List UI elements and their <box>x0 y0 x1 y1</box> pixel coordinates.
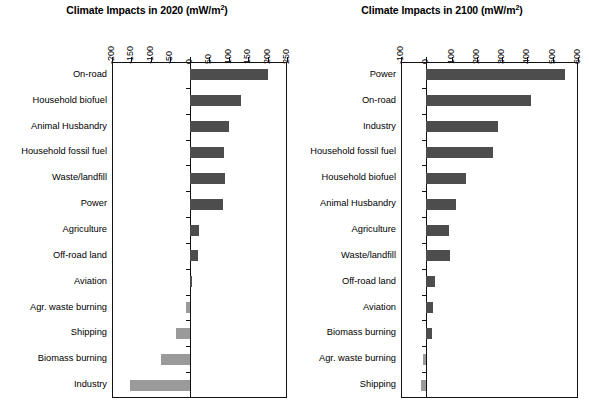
x-axis-tick <box>131 57 132 62</box>
bar <box>190 276 192 287</box>
bar <box>426 199 456 210</box>
category-tick <box>422 114 426 115</box>
category-label: Household fossil fuel <box>3 146 107 156</box>
category-label: Waste/landfill <box>3 172 107 182</box>
x-axis-tick <box>502 57 503 62</box>
chart-panel-2020: Climate Impacts in 2020 (mW/m2) -200-150… <box>0 0 294 411</box>
category-label: Animal Husbandry <box>298 198 396 208</box>
bar <box>426 173 466 184</box>
category-tick <box>422 191 426 192</box>
x-axis-tick <box>248 57 249 62</box>
x-axis-tick <box>527 57 528 62</box>
category-tick <box>186 372 190 373</box>
figure-root: Climate Impacts in 2020 (mW/m2) -200-150… <box>0 0 589 411</box>
category-tick <box>186 243 190 244</box>
category-label: Power <box>3 198 107 208</box>
category-label: Industry <box>3 379 107 389</box>
bar <box>426 69 565 80</box>
category-tick <box>422 88 426 89</box>
category-tick <box>422 295 426 296</box>
x-axis-tick <box>209 57 210 62</box>
bar <box>426 276 435 287</box>
category-tick <box>186 320 190 321</box>
chart-panel-2100: Climate Impacts in 2100 (mW/m2) -1000100… <box>295 0 589 411</box>
bar <box>176 328 190 339</box>
category-tick <box>186 269 190 270</box>
x-axis-tick <box>578 57 579 62</box>
category-tick <box>186 165 190 166</box>
category-label: On-road <box>298 95 396 105</box>
bar <box>190 69 268 80</box>
category-tick <box>186 88 190 89</box>
chart-title-2020: Climate Impacts in 2020 (mW/m2) <box>0 4 294 16</box>
category-label: Off-road land <box>3 250 107 260</box>
category-label: Agriculture <box>3 224 107 234</box>
x-axis-tick <box>401 57 402 62</box>
x-axis-tick <box>477 57 478 62</box>
category-label: Animal Husbandry <box>3 121 107 131</box>
bar <box>190 147 224 158</box>
category-tick <box>422 165 426 166</box>
plot-area-2020 <box>112 62 287 398</box>
category-label: Biomass burning <box>298 327 396 337</box>
category-tick <box>422 62 426 63</box>
bar <box>426 328 432 339</box>
bar <box>426 121 498 132</box>
bar <box>426 147 493 158</box>
bar <box>421 380 426 391</box>
category-tick <box>422 217 426 218</box>
category-label: Household biofuel <box>298 172 396 182</box>
bar <box>161 354 190 365</box>
bar <box>190 250 198 261</box>
category-tick <box>186 217 190 218</box>
category-tick <box>422 346 426 347</box>
category-label: Power <box>298 69 396 79</box>
category-tick <box>422 372 426 373</box>
x-axis-line <box>401 62 578 63</box>
category-tick <box>422 243 426 244</box>
category-label: Aviation <box>3 276 107 286</box>
bar <box>426 302 433 313</box>
bar <box>190 121 229 132</box>
category-tick <box>186 114 190 115</box>
x-axis-tick <box>170 57 171 62</box>
bar <box>190 173 225 184</box>
bar <box>426 225 449 236</box>
bar <box>186 302 190 313</box>
category-label: On-road <box>3 69 107 79</box>
category-label: Household biofuel <box>3 95 107 105</box>
category-label: Agr. waste burning <box>3 302 107 312</box>
category-tick <box>186 62 190 63</box>
x-axis-tick <box>151 57 152 62</box>
category-label: Household fossil fuel <box>298 146 396 156</box>
bar <box>190 95 241 106</box>
x-axis-tick <box>452 57 453 62</box>
category-tick <box>186 140 190 141</box>
category-label: Off-road land <box>298 276 396 286</box>
bar <box>426 250 450 261</box>
category-label: Biomass burning <box>3 353 107 363</box>
x-axis-tick <box>553 57 554 62</box>
category-label: Agr. waste burning <box>298 353 396 363</box>
bar <box>426 95 531 106</box>
category-tick <box>186 191 190 192</box>
x-axis-tick <box>112 57 113 62</box>
category-label: Shipping <box>298 379 396 389</box>
bar <box>190 199 223 210</box>
category-label: Industry <box>298 121 396 131</box>
x-axis-tick <box>268 57 269 62</box>
bar <box>130 380 190 391</box>
bar <box>423 354 426 365</box>
category-label: Aviation <box>298 302 396 312</box>
category-label: Agriculture <box>298 224 396 234</box>
x-axis-tick <box>287 57 288 62</box>
category-tick <box>422 320 426 321</box>
category-tick <box>422 140 426 141</box>
category-label: Waste/landfill <box>298 250 396 260</box>
category-tick <box>186 295 190 296</box>
category-tick <box>186 346 190 347</box>
x-axis-line <box>112 62 287 63</box>
bar <box>190 225 199 236</box>
category-label: Shipping <box>3 327 107 337</box>
category-tick <box>422 269 426 270</box>
